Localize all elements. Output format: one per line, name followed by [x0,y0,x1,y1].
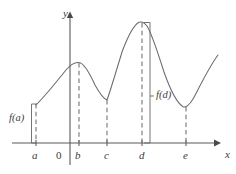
annotation-f-of-a: f(a) [9,113,24,124]
x-tick-label-e: e [183,150,188,161]
x-tick-label-a: a [32,150,38,161]
x-axis-arrowhead [214,140,221,147]
x-tick-label-b: b [75,150,81,161]
function-curve [36,22,218,107]
x-tick-label-c: c [104,150,109,161]
x-axis-label: x [225,149,230,160]
origin-label: 0 [56,150,62,161]
graph-canvas [0,0,236,174]
x-tick-label-d: d [139,150,145,161]
brace-f-of-d [144,23,154,144]
x-axis [12,140,221,147]
dashed-drop-lines [36,23,186,142]
annotation-f-of-d: f(d) [156,90,171,101]
function-graph-figure: a 0 b c d e y x f(a) f(d) [0,0,236,174]
y-axis-label: y [63,8,68,19]
y-axis [67,12,73,166]
